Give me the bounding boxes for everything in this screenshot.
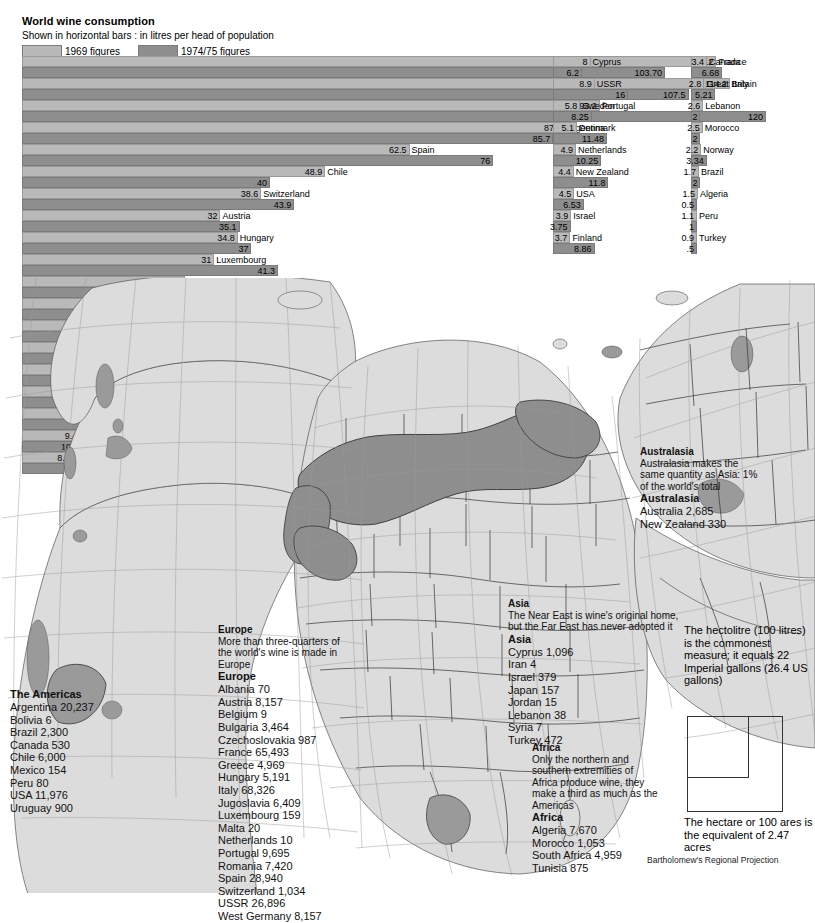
bar-column-3: 3.4Canada6.682.8Great Britain5.212.6Leba… <box>691 56 722 254</box>
bar-country-label: Norway <box>703 145 734 154</box>
bar-1969: 1.1Peru <box>691 210 697 221</box>
bar-country-label: Israel <box>573 211 595 220</box>
bar-group: 2.6Lebanon2 <box>691 100 722 122</box>
landmass-small-island <box>602 346 622 358</box>
note-list-item: Cyprus 1,096 <box>508 646 684 659</box>
bar-value-label: 43.9 <box>274 200 292 209</box>
bar-group: 31Luxembourg41.3 <box>22 254 766 276</box>
bar-value-label: 41.3 <box>258 266 276 275</box>
bar-group: 0.9Turkey.5 <box>691 232 722 254</box>
bar-1969: 5.1Denmark <box>553 122 577 133</box>
wine-region-chile <box>27 620 49 696</box>
bar-1969: 32Austria <box>22 210 220 221</box>
bar-country-label: Canada <box>709 57 741 66</box>
bar-1975: 6.68 <box>691 67 722 78</box>
bar-1969: 87.5Argentina <box>22 122 565 133</box>
note-list-item: Luxembourg 159 <box>218 809 350 822</box>
bar-value-label: 31 <box>201 255 211 264</box>
bar-country-label: Lebanon <box>705 101 740 110</box>
bar-1975: 3.34 <box>691 155 707 166</box>
note-items: Argentina 20,237Bolivia 6Brazil 2,300Can… <box>10 701 94 814</box>
bar-group: 34.8Hungary37 <box>22 232 766 254</box>
note-list-item: Lebanon 38 <box>508 709 684 722</box>
bar-group: 2.2Norway3.34 <box>691 144 722 166</box>
bar-country-label: Chile <box>327 167 348 176</box>
note-the-americas: The Americas Argentina 20,237Bolivia 6Br… <box>10 688 94 814</box>
bar-1969: 8Cyprus <box>553 56 591 67</box>
bar-group: 112France103.70 <box>22 56 766 78</box>
note-heading-2: Africa <box>532 811 692 824</box>
bar-value-label: 38.6 <box>241 189 259 198</box>
note-list-item: Bulgaria 3,464 <box>218 721 350 734</box>
landmass-arctic-island <box>656 291 688 305</box>
note-heading-2: Asia <box>508 633 684 646</box>
bar-1969: 1.5Algeria <box>691 188 698 199</box>
note-body: Only the northern and southern extremiti… <box>532 754 660 811</box>
bar-country-label: Netherlands <box>578 145 627 154</box>
bar-value-label: 62.5 <box>389 145 407 154</box>
bar-1975: 16 <box>553 89 628 100</box>
bar-1975: .5 <box>691 243 697 254</box>
bar-1975: 10.25 <box>553 155 601 166</box>
note-heading-2: Australasia <box>640 492 790 505</box>
bar-group: 114.2Italy107.5 <box>22 78 766 100</box>
bar-value-label: 11.8 <box>589 178 606 187</box>
bar-1969: 8.9USSR <box>553 78 595 89</box>
note-heading: Africa <box>532 742 692 754</box>
bar-value-label: 37 <box>238 244 248 253</box>
note-list-item: Bolivia 6 <box>10 714 94 727</box>
bar-1969: 1.7Brazil <box>691 166 699 177</box>
bar-group: 5.8Sweden8.25 <box>553 100 628 122</box>
bar-value-label: 3.9 <box>556 211 569 220</box>
bar-1969: 4.5USA <box>553 188 574 199</box>
note-list-item: Jugoslavia 6,409 <box>218 797 350 810</box>
note-list-item: Peru 80 <box>10 777 94 790</box>
bar-value-label: 1 <box>689 222 694 231</box>
bar-group: 93.2Portugal120 <box>22 100 766 122</box>
bar-group: 1.5Algeria0.5 <box>691 188 722 210</box>
bar-1969: 3.9Israel <box>553 210 571 221</box>
note-list-item: Switzerland 1,034 <box>218 885 350 898</box>
bar-value-label: 11.48 <box>582 134 604 143</box>
bar-1975: 2 <box>691 177 700 188</box>
bar-country-label: Finland <box>572 233 602 242</box>
bar-1969: 2.8Great Britain <box>691 78 704 89</box>
note-list-item: USSR 26,896 <box>218 897 350 910</box>
bar-1975: 40 <box>22 177 270 188</box>
note-list-item: Greece 4,969 <box>218 759 350 772</box>
bar-country-label: Brazil <box>701 167 724 176</box>
bar-group: 48.9Chile40 <box>22 166 766 188</box>
bar-value-label: 16 <box>615 90 625 99</box>
note-list-item: Austria 8,157 <box>218 696 350 709</box>
bar-group: 3.7Finland8.86 <box>553 232 628 254</box>
bar-1975: 8.25 <box>553 111 592 122</box>
bar-value-label: 3.34 <box>686 156 704 165</box>
bar-country-label: USSR <box>597 79 622 88</box>
bar-country-label: Spain <box>412 145 435 154</box>
bar-group: 1.1Peru1 <box>691 210 722 232</box>
note-heading-2: Europe <box>218 670 350 683</box>
bar-1969: 2.5Morocco <box>691 122 703 133</box>
bar-group: 3.9Israel3.75 <box>553 210 628 232</box>
note-list-item: West Germany 8,157 <box>218 910 350 923</box>
bar-value-label: 3.75 <box>550 222 568 231</box>
bar-value-label: 8 <box>583 57 588 66</box>
note-list-item: Malta 20 <box>218 822 350 835</box>
bar-1975: 1 <box>691 221 697 232</box>
bar-value-label: 2 <box>692 134 697 143</box>
bar-group: 62.5Spain76 <box>22 144 766 166</box>
note-body: The Near East is wine's original home, b… <box>508 610 684 633</box>
bar-value-label: 120 <box>748 112 763 121</box>
note-list-item: Portugal 9,695 <box>218 847 350 860</box>
note-body: More than three-quarters of the world's … <box>218 636 350 670</box>
bar-value-label: 5.21 <box>695 90 713 99</box>
note-items: Algeria 7,670Morocco 1,053South Africa 4… <box>532 824 692 874</box>
bar-1969: 5.8Sweden <box>553 100 580 111</box>
bar-group: 38.6Switzerland43.9 <box>22 188 766 210</box>
bar-1975: 6.53 <box>553 199 584 210</box>
bar-1975: 43.9 <box>22 199 294 210</box>
bar-value-label: 8.25 <box>571 112 589 121</box>
bar-value-label: 6.53 <box>563 200 581 209</box>
bar-value-label: 0.5 <box>681 200 694 209</box>
note-australasia: Australasia Australasia makes the same q… <box>640 446 790 530</box>
